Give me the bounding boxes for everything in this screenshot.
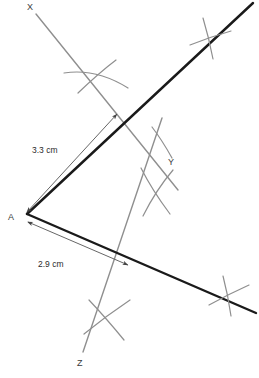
construction-line-az xyxy=(83,118,162,352)
arc-mark-near-y xyxy=(141,168,173,216)
dimension-label-lower: 2.9 cm xyxy=(38,259,64,269)
geometry-canvas: X A Y Z 3.3 cm 2.9 cm xyxy=(0,0,259,378)
geometry-diagram: X A Y Z 3.3 cm 2.9 cm xyxy=(0,0,259,378)
arc-mark-upper-ray xyxy=(190,18,231,59)
dimension-arrow-upper xyxy=(27,114,117,212)
dimension-label-upper: 3.3 cm xyxy=(32,145,58,155)
label-vertex-a: A xyxy=(8,212,14,222)
dimension-arrows xyxy=(27,114,128,265)
label-point-x: X xyxy=(27,2,33,12)
compass-arc-marks xyxy=(64,18,249,340)
label-point-y: Y xyxy=(168,157,174,167)
arc-mark-above-y xyxy=(152,127,172,158)
construction-lines xyxy=(36,14,178,352)
arc-mark-on-line-z xyxy=(84,300,130,340)
diagram-labels: X A Y Z 3.3 cm 2.9 cm xyxy=(8,2,174,368)
label-point-z: Z xyxy=(77,358,83,368)
construction-line-ax xyxy=(36,14,178,190)
